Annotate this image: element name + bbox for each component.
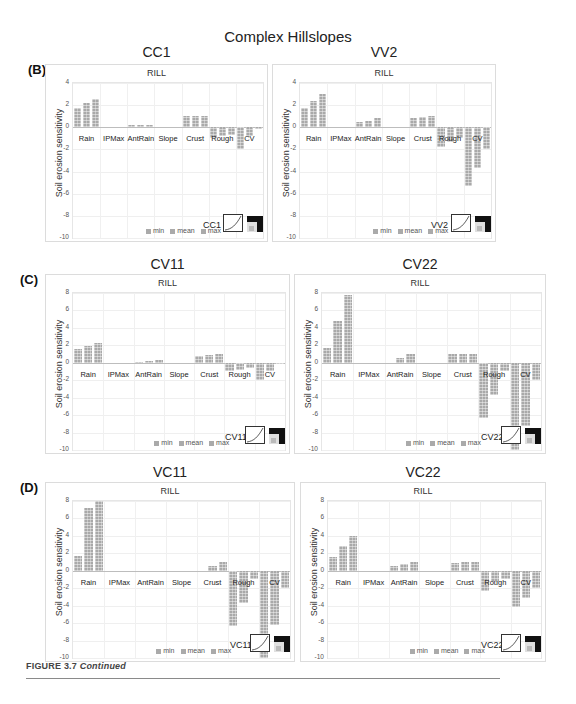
chart-title: VV2 xyxy=(314,44,454,60)
bar-min-antrain xyxy=(128,125,135,127)
y-tick-label: 4 xyxy=(308,531,324,538)
hillslope-code: VV2 xyxy=(431,220,448,230)
y-tick-label: 2 xyxy=(53,548,69,555)
gridline xyxy=(73,194,263,195)
y-tick-label: -8 xyxy=(53,428,69,435)
bar-mean-rain xyxy=(84,508,92,571)
hillslope-code: CV11 xyxy=(225,432,247,442)
gridline xyxy=(73,105,263,106)
legend-swatch xyxy=(209,441,214,446)
bar-max-crust xyxy=(219,562,227,571)
bar-max-rain xyxy=(94,343,102,363)
bar-max-rain xyxy=(319,94,326,127)
bar-min-antrain xyxy=(390,566,398,571)
vertical-gridline xyxy=(355,83,356,238)
chart-panel: RILLSoil erosion sensitivityRainIPMaxAnt… xyxy=(294,274,546,454)
legend-label: mean xyxy=(441,647,459,654)
bar-max-rain xyxy=(344,295,352,363)
y-tick-label: -10 xyxy=(302,445,318,452)
y-tick-label: 6 xyxy=(302,305,318,312)
gridline xyxy=(73,415,285,416)
legend-swatch xyxy=(430,441,435,446)
y-tick-label: 0 xyxy=(302,358,318,365)
bar-mean-crust xyxy=(208,566,216,570)
y-tick-label: -2 xyxy=(53,144,69,151)
gridline xyxy=(73,606,290,607)
bar-mean-crust xyxy=(192,116,199,127)
bar-min-rain xyxy=(74,108,81,127)
bar-min-crust xyxy=(195,356,203,363)
legend-swatch xyxy=(406,441,411,446)
y-tick-label: -8 xyxy=(53,211,69,218)
legend-item-mean: mean xyxy=(170,227,195,234)
gridline xyxy=(73,623,290,624)
chart-subtitle: RILL xyxy=(295,278,545,288)
bar-min-crust xyxy=(183,116,190,127)
legend-item-mean: mean xyxy=(430,439,455,446)
gridline xyxy=(322,415,541,416)
y-tick-label: -4 xyxy=(280,167,296,174)
bar-mean-crust xyxy=(419,117,426,127)
legend-swatch xyxy=(211,649,216,654)
profile-curve-icon xyxy=(501,426,521,444)
panel-letter: (D) xyxy=(20,480,38,495)
legend-item-min: min xyxy=(406,439,424,446)
y-tick-label: -4 xyxy=(302,393,318,400)
legend-swatch xyxy=(181,649,186,654)
hillslope-code: VC11 xyxy=(230,640,252,650)
bar-mean-antrain xyxy=(137,125,144,127)
legend-label: min xyxy=(380,227,391,234)
gridline xyxy=(73,518,290,519)
profile-curve-icon xyxy=(451,214,471,232)
profile-curve-icon xyxy=(245,426,265,444)
gridline xyxy=(73,149,263,150)
vertical-gridline xyxy=(409,83,410,238)
y-tick-label: 6 xyxy=(53,513,69,520)
gridline xyxy=(73,293,285,294)
bar-max-crust xyxy=(215,354,223,363)
legend-swatch xyxy=(170,229,175,234)
y-tick-label: -8 xyxy=(308,636,324,643)
chart-subtitle: RILL xyxy=(273,68,495,78)
y-tick-label: -6 xyxy=(308,618,324,625)
gridline xyxy=(322,398,541,399)
vertical-gridline xyxy=(327,83,328,238)
y-tick-label: 4 xyxy=(53,531,69,538)
bar-max-antrain xyxy=(146,125,153,127)
plot-area: RainIPMaxAntRainSlopeCrustRoughCVminmean… xyxy=(299,82,492,239)
bar-max-crust xyxy=(471,562,479,571)
legend-swatch xyxy=(179,441,184,446)
bar-mean-antrain xyxy=(396,358,404,362)
bar-mean-rain xyxy=(84,346,92,363)
bar-max-rain xyxy=(92,99,99,128)
plan-shape-icon xyxy=(247,216,263,232)
gridline xyxy=(73,658,290,659)
chart-title: CC1 xyxy=(87,44,227,60)
gridline xyxy=(73,501,290,502)
chart-legend: minmeanmax xyxy=(410,647,485,654)
y-tick-label: -4 xyxy=(53,393,69,400)
legend-item-min: min xyxy=(156,647,174,654)
y-tick-label: -4 xyxy=(308,601,324,608)
main-title: Complex Hillslopes xyxy=(0,28,576,45)
y-tick-label: 8 xyxy=(302,288,318,295)
legend-swatch xyxy=(146,229,151,234)
y-tick-label: -8 xyxy=(53,636,69,643)
legend-item-max: max xyxy=(211,647,231,654)
bar-min-rain xyxy=(74,556,82,571)
chart-title: VC11 xyxy=(100,464,240,480)
y-tick-label: 8 xyxy=(53,496,69,503)
y-tick-label: 6 xyxy=(53,305,69,312)
y-tick-label: 4 xyxy=(53,323,69,330)
y-tick-label: 6 xyxy=(308,513,324,520)
gridline xyxy=(328,606,541,607)
y-tick-label: 2 xyxy=(53,100,69,107)
y-tick-label: -6 xyxy=(53,410,69,417)
gridline xyxy=(300,149,491,150)
plot-area: RainIPMaxAntRainSlopeCrustRoughCVminmean… xyxy=(72,292,286,451)
x-category-label: CV xyxy=(505,370,545,379)
gridline xyxy=(73,588,290,589)
bar-max-antrain xyxy=(406,354,414,363)
legend-swatch xyxy=(156,649,161,654)
y-tick-label: -10 xyxy=(280,233,296,240)
